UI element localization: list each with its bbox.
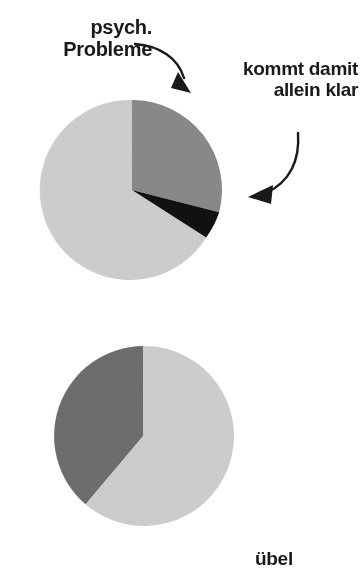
annotation-psych-probleme: psych. Probleme bbox=[24, 16, 152, 61]
annotation-uebel: übel bbox=[255, 548, 355, 569]
pie-chart-figure: psych. Probleme kommt damit allein klar … bbox=[0, 0, 363, 586]
top-pie-chart bbox=[40, 98, 226, 284]
annotation-kommt-damit-allein-klar: kommt damit allein klar bbox=[186, 58, 358, 101]
arrow-kommt-damit bbox=[248, 133, 298, 204]
bottom-pie-chart bbox=[51, 344, 237, 530]
